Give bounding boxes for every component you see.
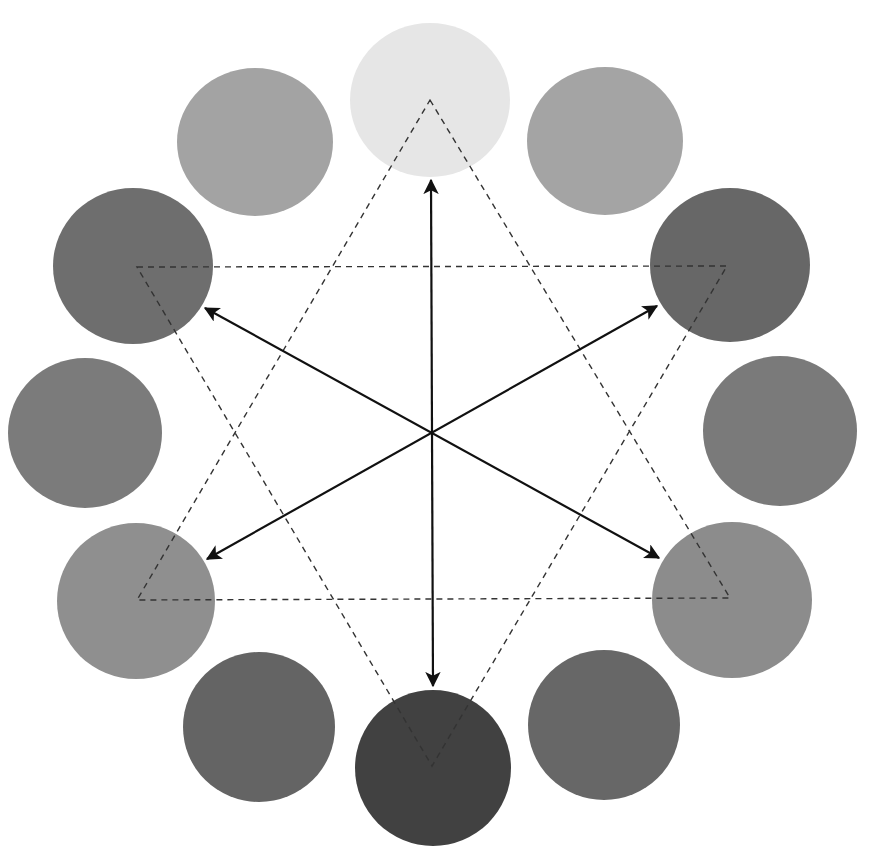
color-circle-left-middle (8, 358, 162, 508)
color-circle-right-upper (650, 188, 810, 342)
color-circle-right-lower (652, 522, 812, 678)
color-circle-bottom-left (183, 652, 335, 802)
color-wheel-diagram (0, 0, 880, 852)
color-circle-left-upper (53, 188, 213, 344)
color-circle-top-left (177, 68, 333, 216)
diagram-canvas (0, 0, 880, 852)
complement-arrows (205, 180, 659, 686)
color-circle-top-right (527, 67, 683, 215)
color-circle-right-middle (703, 356, 857, 506)
color-circle-bottom-right (528, 650, 680, 800)
color-circle-left-lower (57, 523, 215, 679)
color-circle-bottom (355, 690, 511, 846)
